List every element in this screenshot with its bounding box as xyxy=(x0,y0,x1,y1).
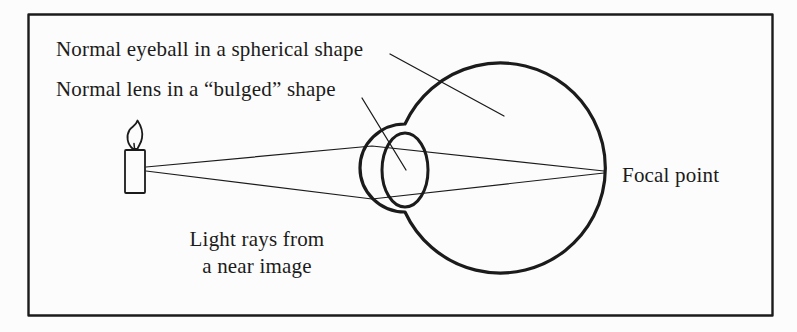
label-light-rays: Light rays from a near image xyxy=(159,226,355,280)
candle-body xyxy=(125,150,145,193)
scanned-figure-page: Normal eyeball in a spherical shape Norm… xyxy=(0,0,797,332)
light-ray-lower xyxy=(146,171,604,199)
label-normal-lens: Normal lens in a “bulged” shape xyxy=(56,76,336,102)
label-light-rays-line2: a near image xyxy=(159,253,355,280)
label-light-rays-line1: Light rays from xyxy=(159,226,355,253)
label-focal-point: Focal point xyxy=(622,162,719,188)
eyeball-outline xyxy=(360,63,605,273)
label-normal-eyeball: Normal eyeball in a spherical shape xyxy=(56,36,363,62)
light-ray-upper xyxy=(146,146,604,171)
candle-wick xyxy=(134,144,135,149)
candle-drawing xyxy=(125,121,145,194)
